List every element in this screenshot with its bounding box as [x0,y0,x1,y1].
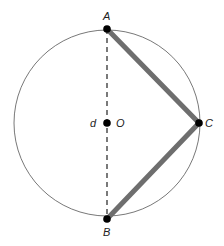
geometry-diagram: A d O C B [0,0,224,246]
label-d: d [90,117,97,129]
label-c: C [205,117,213,129]
label-o: O [116,117,125,129]
point-c [195,119,203,127]
chord-cb [107,123,199,219]
point-b [103,215,111,223]
point-a [103,25,111,33]
chord-ac [107,29,199,123]
point-o [103,119,111,127]
label-b: B [103,226,110,238]
label-a: A [102,10,110,22]
